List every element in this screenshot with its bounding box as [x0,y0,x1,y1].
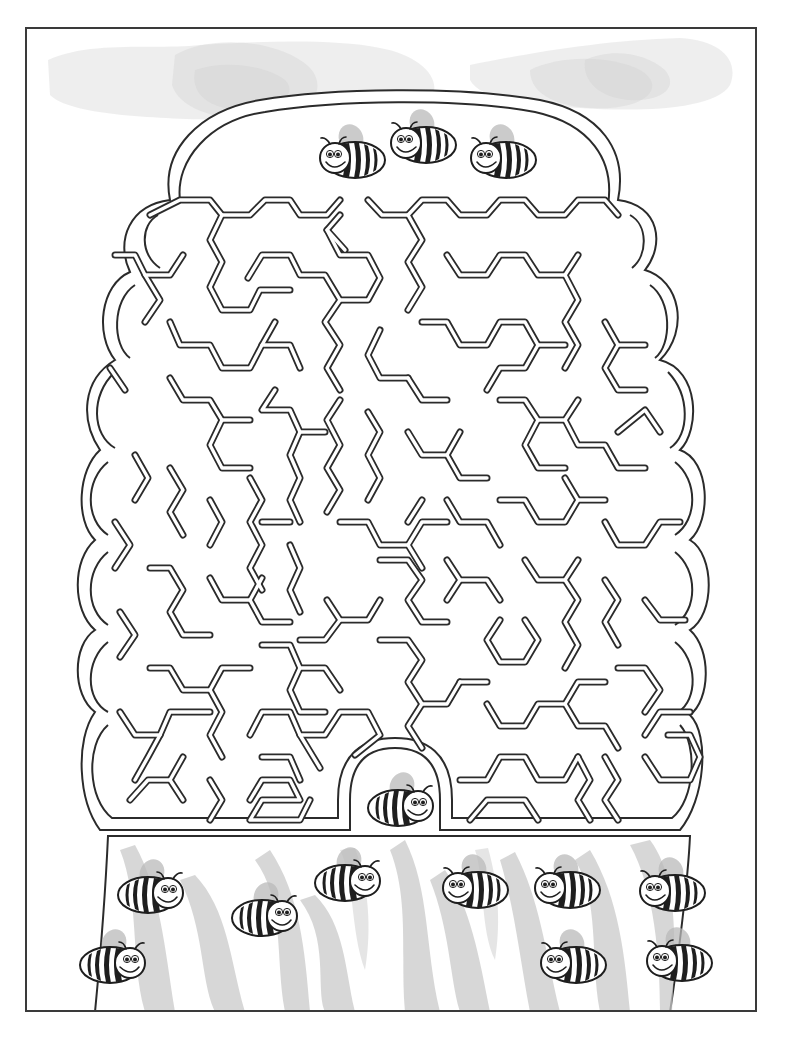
maze-worksheet [0,0,788,1042]
hive-post [95,836,690,1012]
maze-canvas [0,0,788,1042]
bee-icon [368,768,433,826]
